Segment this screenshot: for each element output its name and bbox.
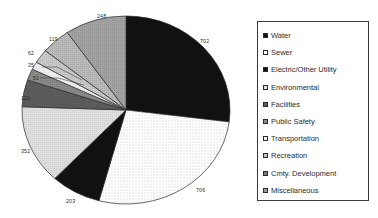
pie-value-label-recreation: 62 — [28, 50, 34, 56]
legend-swatch-icon-facilities — [263, 102, 268, 107]
legend-swatch-icon-public-safety — [263, 119, 268, 124]
pie-chart-figure: 702 706 203 352 120 51 35 62 119 248 Wat… — [0, 0, 378, 218]
pie-slice-group — [22, 16, 230, 204]
legend-label-electric-other-utility: Electric/Other Utility — [271, 65, 337, 74]
pie-value-label-environmental: 352 — [21, 148, 30, 154]
legend-swatch-icon-sewer — [263, 50, 268, 55]
legend-label-miscellaneous: Miscellaneous — [271, 186, 318, 195]
legend-swatch-icon-electric-other-utility — [263, 67, 268, 72]
legend-item-electric-other-utility[interactable]: Electric/Other Utility — [263, 61, 368, 78]
pie-value-label-facilities: 120 — [21, 95, 30, 101]
legend-label-environmental: Environmental — [271, 83, 319, 92]
pie-value-label-public-safety: 51 — [33, 75, 39, 81]
legend-label-public-safety: Public Safety — [271, 117, 315, 126]
legend-item-transportation[interactable]: Transportation — [263, 130, 368, 147]
legend-swatch-icon-environmental — [263, 85, 268, 90]
legend-swatch-icon-water — [263, 33, 268, 38]
pie-value-label-miscellaneous: 248 — [97, 13, 106, 19]
pie-value-label-water: 702 — [200, 38, 209, 44]
pie-chart-plot-area: 702 706 203 352 120 51 35 62 119 248 — [0, 0, 250, 218]
legend-swatch-icon-recreation — [263, 153, 268, 158]
pie-slice-water[interactable] — [126, 16, 230, 122]
legend-item-sewer[interactable]: Sewer — [263, 44, 368, 61]
legend-swatch-icon-cmty-development — [263, 171, 268, 176]
legend-swatch-icon-miscellaneous — [263, 188, 268, 193]
pie-value-label-sewer: 706 — [196, 187, 205, 193]
legend-item-miscellaneous[interactable]: Miscellaneous — [263, 182, 368, 199]
pie-value-label-transportation: 35 — [28, 62, 34, 68]
legend-item-recreation[interactable]: Recreation — [263, 147, 368, 164]
legend-label-recreation: Recreation — [271, 151, 307, 160]
pie-svg — [0, 0, 250, 218]
chart-legend: Water Sewer Electric/Other Utility Envir… — [257, 21, 369, 201]
pie-value-label-electric: 203 — [66, 198, 75, 204]
legend-item-cmty-development[interactable]: Cmty. Development — [263, 165, 368, 182]
legend-item-water[interactable]: Water — [263, 27, 368, 44]
legend-label-water: Water — [271, 31, 291, 40]
legend-item-public-safety[interactable]: Public Safety — [263, 113, 368, 130]
legend-label-facilities: Facilities — [271, 100, 300, 109]
legend-swatch-icon-transportation — [263, 136, 268, 141]
legend-label-sewer: Sewer — [271, 48, 292, 57]
legend-label-cmty-development: Cmty. Development — [271, 169, 336, 178]
legend-item-environmental[interactable]: Environmental — [263, 79, 368, 96]
legend-item-facilities[interactable]: Facilities — [263, 96, 368, 113]
legend-label-transportation: Transportation — [271, 134, 319, 143]
pie-value-label-cmty-development: 119 — [49, 36, 58, 42]
